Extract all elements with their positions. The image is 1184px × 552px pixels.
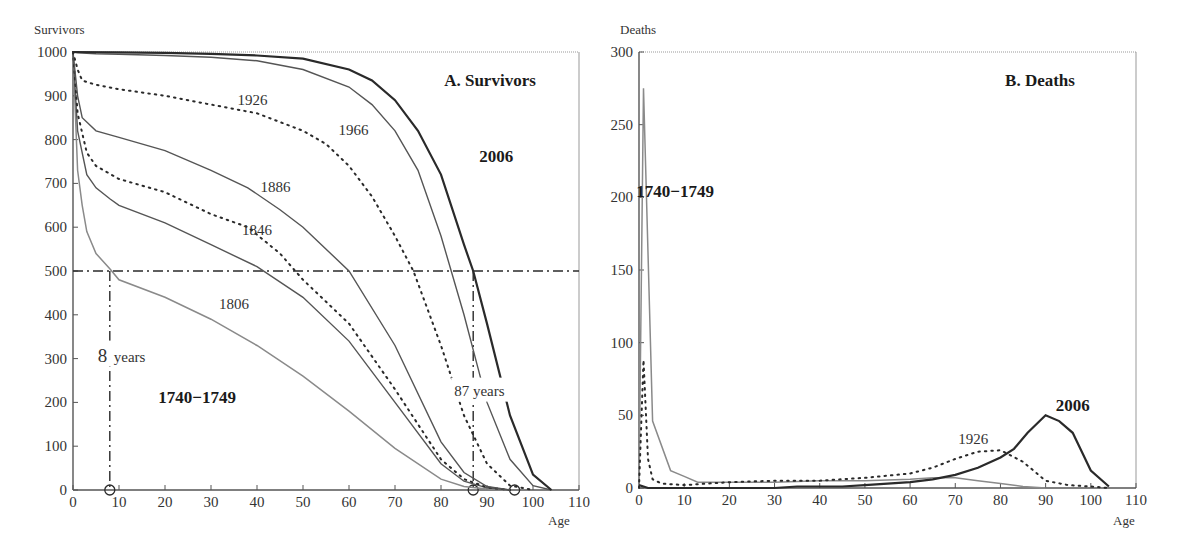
survivors-panel: 0102030405060708090100110010020030040050…: [34, 22, 590, 528]
series-1740-1749-line: [639, 88, 1046, 488]
x-tick-label: 60: [903, 492, 918, 508]
x-tick-label: 40: [812, 492, 827, 508]
x-tick-label: 30: [767, 492, 782, 508]
x-tick-label: 100: [1080, 492, 1103, 508]
y-tick-label: 200: [611, 189, 634, 205]
curve-label: 1926: [958, 431, 989, 447]
x-axis-title: Age: [548, 513, 570, 528]
curve-label: 2006: [1056, 396, 1090, 415]
median-1740-annotation: 8: [98, 345, 108, 366]
y-tick-label: 600: [45, 219, 68, 235]
x-tick-label: 50: [857, 492, 872, 508]
x-tick-label: 70: [388, 494, 403, 510]
y-tick-label: 300: [45, 351, 68, 367]
y-tick-label: 400: [45, 307, 68, 323]
x-tick-label: 90: [480, 494, 495, 510]
x-tick-label: 110: [1125, 492, 1147, 508]
y-tick-label: 250: [611, 117, 634, 133]
y-tick-label: 150: [611, 262, 634, 278]
curve-label: 1966: [339, 122, 370, 138]
x-tick-label: 20: [158, 494, 173, 510]
y-tick-label: 100: [45, 438, 68, 454]
x-tick-label: 80: [434, 494, 449, 510]
x-tick-label: 80: [993, 492, 1008, 508]
curve-label: 1846: [242, 222, 273, 238]
x-tick-label: 90: [1038, 492, 1053, 508]
panel-title: A. Survivors: [444, 71, 536, 90]
median-1740-annotation-unit: years: [114, 349, 146, 365]
y-tick-label: 100: [611, 335, 634, 351]
curve-label: 1806: [219, 296, 250, 312]
series-1926-line: [639, 360, 1109, 488]
x-tick-label: 60: [342, 494, 357, 510]
y-tick-label: 200: [45, 394, 68, 410]
y-tick-label: 300: [611, 44, 634, 60]
x-tick-label: 70: [948, 492, 963, 508]
x-tick-label: 10: [112, 494, 127, 510]
x-tick-label: 30: [204, 494, 219, 510]
x-tick-label: 20: [722, 492, 737, 508]
curve-label: 1740−1749: [636, 182, 714, 201]
y-tick-label: 800: [45, 132, 68, 148]
y-tick-label: 0: [60, 482, 68, 498]
median-2006-annotation: 87 years: [454, 383, 505, 399]
curve-label: 1740−1749: [158, 388, 236, 407]
y-tick-label: 700: [45, 175, 68, 191]
panel-title: B. Deaths: [1005, 71, 1075, 90]
y-tick-label: 0: [626, 480, 634, 496]
deaths-panel: 0102030405060708090100110050100150200250…: [611, 22, 1147, 528]
y-tick-label: 500: [45, 263, 68, 279]
curve-label: 1886: [260, 179, 291, 195]
x-tick-label: 110: [568, 494, 590, 510]
y-tick-label: 50: [618, 407, 633, 423]
x-tick-label: 0: [635, 492, 643, 508]
y-axis-title: Deaths: [620, 22, 656, 37]
x-tick-label: 100: [522, 494, 545, 510]
curve-label: 1926: [237, 92, 268, 108]
x-axis-title: Age: [1113, 513, 1135, 528]
x-tick-label: 10: [677, 492, 692, 508]
x-tick-label: 50: [296, 494, 311, 510]
x-tick-label: 0: [69, 494, 77, 510]
chart-canvas: 0102030405060708090100110010020030040050…: [0, 0, 1184, 552]
curve-label: 2006: [479, 147, 513, 166]
y-tick-label: 900: [45, 88, 68, 104]
x-tick-label: 40: [250, 494, 265, 510]
y-tick-label: 1000: [37, 44, 67, 60]
y-axis-title: Survivors: [34, 22, 85, 37]
